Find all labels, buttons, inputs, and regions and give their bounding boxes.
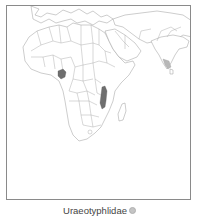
- distribution-map: [6, 5, 191, 200]
- sri-lanka: [170, 69, 173, 74]
- europe-landmass: [31, 6, 113, 25]
- family-name-label: Uraeotyphlidae: [63, 205, 127, 216]
- madagascar: [118, 103, 126, 121]
- legend-circle-icon: [129, 207, 136, 214]
- map-caption: Uraeotyphlidae: [0, 205, 199, 216]
- map-frame: [6, 5, 191, 200]
